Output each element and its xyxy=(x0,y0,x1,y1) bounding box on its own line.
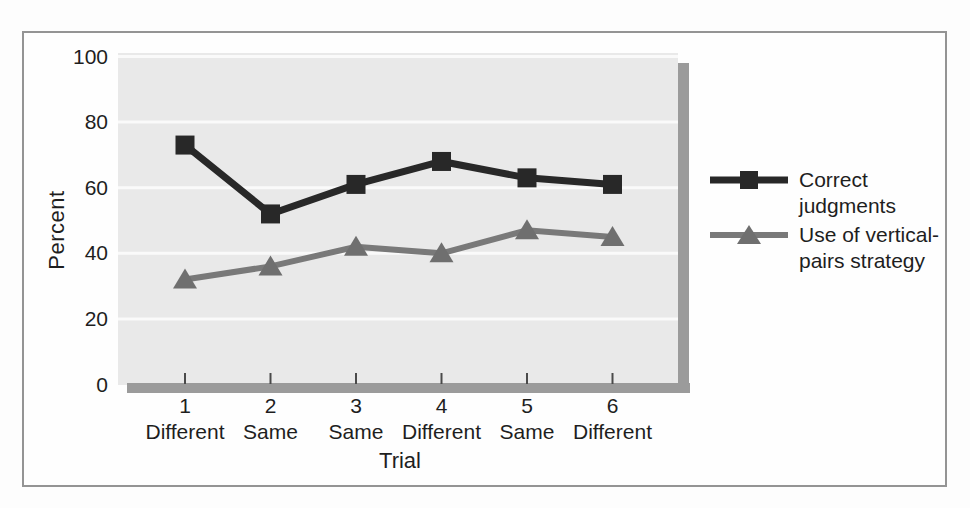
condition-label-6: Different xyxy=(554,420,672,444)
y-tick-label-0: 0 xyxy=(54,373,108,397)
legend-label: Use of vertical- pairs strategy xyxy=(799,222,939,274)
y-tick-label-80: 80 xyxy=(54,110,108,134)
triangle-marker-icon xyxy=(710,224,788,246)
legend-square-marker xyxy=(740,171,758,189)
square-marker xyxy=(347,175,366,194)
plot-shadow-right xyxy=(678,63,689,392)
legend-item-vertical-pairs-strategy: Use of vertical- pairs strategy xyxy=(710,222,939,274)
legend: Correct judgments Use of vertical- pairs… xyxy=(710,167,939,274)
x-axis-title: Trial xyxy=(340,449,460,473)
square-marker xyxy=(603,175,622,194)
x-tick-label-6: 6 xyxy=(573,394,653,418)
x-tick-label-1: 1 xyxy=(145,394,225,418)
y-tick-label-20: 20 xyxy=(54,307,108,331)
x-tick-label-5: 5 xyxy=(487,394,567,418)
square-marker xyxy=(518,168,537,187)
x-tick-label-4: 4 xyxy=(402,394,482,418)
legend-label-line: judgments xyxy=(799,193,896,219)
square-marker xyxy=(432,152,451,171)
x-tick-label-2: 2 xyxy=(231,394,311,418)
legend-label-line: Correct xyxy=(799,167,896,193)
square-marker xyxy=(176,136,195,155)
x-tick-label-3: 3 xyxy=(316,394,396,418)
legend-label: Correct judgments xyxy=(799,167,896,219)
y-tick-label-100: 100 xyxy=(54,45,108,69)
legend-label-line: pairs strategy xyxy=(799,248,939,274)
square-marker-icon xyxy=(710,169,788,191)
series-line-0 xyxy=(185,145,613,214)
legend-label-line: Use of vertical- xyxy=(799,222,939,248)
y-axis-title: Percent xyxy=(44,160,70,300)
legend-item-correct-judgments: Correct judgments xyxy=(710,167,939,219)
series-line-1 xyxy=(185,230,613,279)
square-marker xyxy=(261,204,280,223)
figure: 020406080100 123456 DifferentSameSameDif… xyxy=(0,0,970,508)
chart-canvas xyxy=(118,53,678,385)
